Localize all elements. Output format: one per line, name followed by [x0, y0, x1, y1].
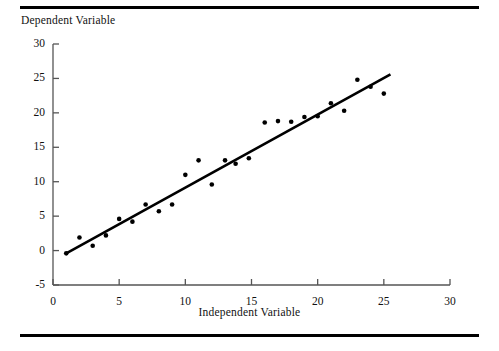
y-tick-label: 5 — [9, 210, 45, 222]
data-point — [355, 78, 360, 83]
data-point — [262, 120, 267, 125]
y-tick-label: 30 — [9, 38, 45, 50]
data-point — [64, 251, 69, 256]
x-axis-title: Independent Variable — [0, 306, 499, 318]
data-point — [223, 158, 228, 163]
y-tick-label: 0 — [9, 245, 45, 257]
data-point — [196, 158, 201, 163]
data-point — [183, 173, 188, 178]
data-point — [90, 243, 95, 248]
data-point — [233, 162, 238, 167]
data-point — [170, 202, 175, 207]
regression-line — [66, 74, 390, 253]
data-point — [143, 202, 148, 207]
data-point — [315, 114, 320, 119]
data-point — [368, 84, 373, 89]
data-point — [302, 115, 307, 120]
data-point — [157, 209, 162, 214]
y-tick-label: 25 — [9, 73, 45, 85]
data-point — [342, 108, 347, 113]
data-point — [382, 91, 387, 96]
scatter-plot-figure: Dependent Variable 051015202530-50510152… — [0, 0, 499, 351]
data-point — [276, 119, 281, 124]
data-point — [77, 235, 82, 240]
data-point — [130, 219, 135, 224]
data-point — [289, 120, 294, 125]
y-axis-ticks — [53, 44, 59, 285]
data-point — [329, 101, 334, 106]
data-point — [104, 233, 109, 238]
data-point — [117, 217, 122, 222]
regression-line-segment — [66, 74, 390, 253]
y-tick-label: 10 — [9, 176, 45, 188]
y-tick-label: 20 — [9, 107, 45, 119]
y-tick-label: -5 — [9, 279, 45, 291]
x-axis-ticks — [53, 279, 450, 285]
data-point — [210, 182, 215, 187]
y-tick-label: 15 — [9, 142, 45, 154]
data-point — [247, 156, 252, 161]
